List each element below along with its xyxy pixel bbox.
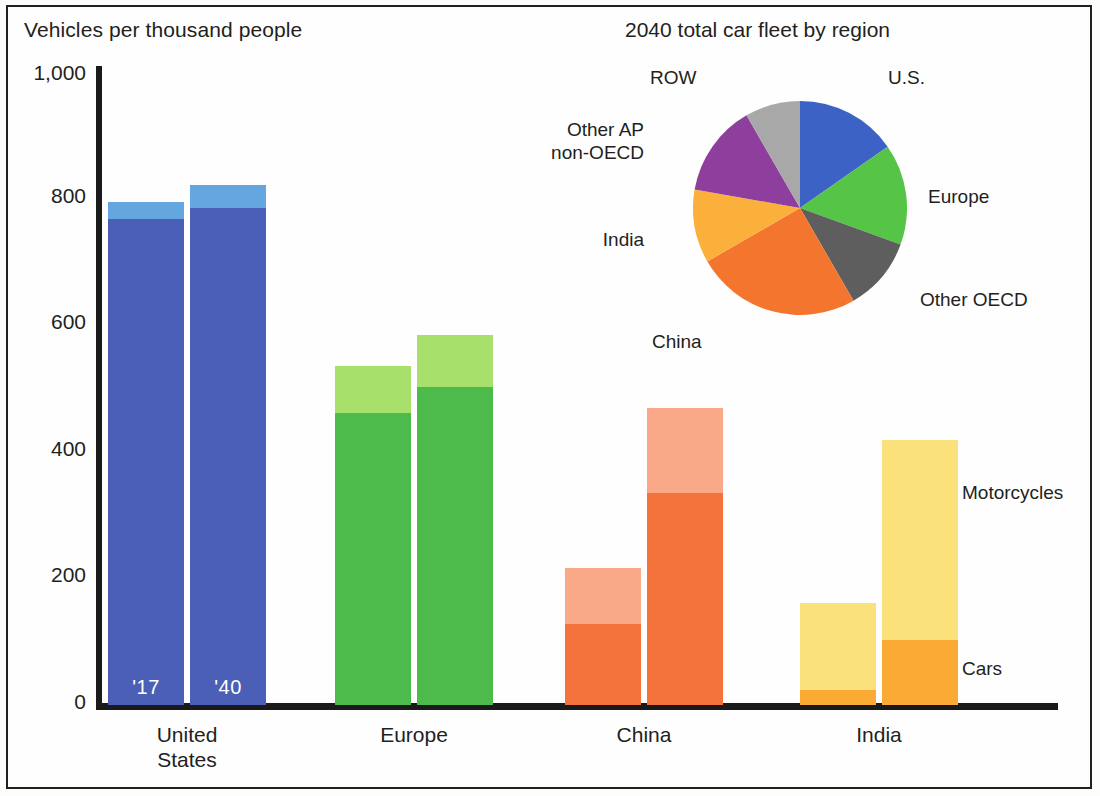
- bar-india-2017: [800, 603, 876, 705]
- bar-segment-cars: [417, 387, 493, 705]
- y-tick-400: 400: [0, 437, 86, 461]
- pie-label-row: ROW: [650, 66, 696, 89]
- bar-segment-cars: [108, 219, 184, 705]
- bar-segment-cars: [800, 690, 876, 705]
- bar-year-label: '40: [190, 676, 266, 699]
- pie-label-other-oecd: Other OECD: [920, 288, 1028, 311]
- pie-svg: [693, 101, 907, 315]
- bar-united-states-2017: '17: [108, 202, 184, 705]
- pie-label-us: U.S.: [888, 66, 925, 89]
- chart-figure: Vehicles per thousand people 2040 total …: [0, 0, 1100, 796]
- bar-segment-cars: [647, 493, 723, 705]
- series-label-cars: Cars: [962, 658, 1002, 680]
- y-tick-1000: 1,000: [0, 61, 86, 85]
- category-label-india: India: [800, 722, 958, 747]
- y-tick-600: 600: [0, 310, 86, 334]
- y-tick-800: 800: [0, 184, 86, 208]
- bar-chart-axis-title: Vehicles per thousand people: [24, 18, 302, 42]
- bar-europe-2040: [417, 335, 493, 705]
- bar-segment-motorcycles: [565, 568, 641, 624]
- bar-europe-2017: [335, 366, 411, 705]
- bar-segment-cars: [190, 208, 266, 705]
- bar-year-label: '17: [108, 676, 184, 699]
- bar-china-2017: [565, 568, 641, 705]
- pie-label-europe: Europe: [928, 185, 989, 208]
- pie-label-china: China: [652, 330, 702, 353]
- series-label-motorcycles: Motorcycles: [962, 482, 1063, 504]
- bar-segment-motorcycles: [190, 185, 266, 208]
- bar-united-states-2040: '40: [190, 185, 266, 705]
- y-axis-line: [96, 66, 102, 708]
- category-label-united-states: United States: [108, 722, 266, 772]
- bar-segment-cars: [882, 640, 958, 705]
- pie-chart: [693, 101, 907, 315]
- bar-segment-motorcycles: [882, 440, 958, 640]
- pie-label-other-ap-non-oecd: Other AP non-OECD: [528, 118, 644, 164]
- bar-segment-motorcycles: [108, 202, 184, 219]
- bar-segment-cars: [565, 624, 641, 705]
- y-tick-0: 0: [0, 690, 86, 714]
- pie-label-india: India: [578, 228, 644, 251]
- pie-chart-title: 2040 total car fleet by region: [625, 18, 890, 42]
- category-label-china: China: [565, 722, 723, 747]
- bar-segment-motorcycles: [417, 335, 493, 387]
- bar-segment-cars: [335, 413, 411, 705]
- bar-segment-motorcycles: [647, 408, 723, 493]
- bar-segment-motorcycles: [800, 603, 876, 690]
- bar-china-2040: [647, 408, 723, 705]
- bar-segment-motorcycles: [335, 366, 411, 413]
- y-tick-200: 200: [0, 563, 86, 587]
- category-label-europe: Europe: [335, 722, 493, 747]
- bar-india-2040: [882, 440, 958, 705]
